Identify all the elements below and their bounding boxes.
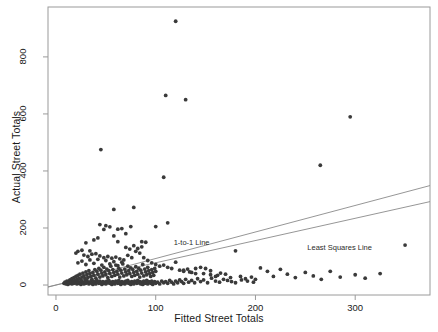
data-point xyxy=(150,261,154,265)
data-point xyxy=(378,272,382,276)
x-tick-label: 100 xyxy=(136,302,176,313)
data-point xyxy=(116,227,120,231)
data-point xyxy=(132,244,136,248)
data-point xyxy=(272,275,276,279)
data-point xyxy=(206,281,210,285)
data-point xyxy=(230,280,234,284)
data-point xyxy=(102,228,106,232)
data-point xyxy=(209,269,213,273)
data-point xyxy=(285,272,289,276)
data-point xyxy=(96,257,100,261)
data-point xyxy=(129,225,133,229)
data-point xyxy=(166,265,170,269)
data-point xyxy=(210,276,214,280)
data-point xyxy=(92,238,96,242)
data-point xyxy=(142,256,146,260)
data-point xyxy=(118,275,122,279)
data-point xyxy=(219,271,223,275)
data-point xyxy=(196,277,200,281)
data-point xyxy=(164,94,168,98)
data-point xyxy=(76,261,80,265)
data-point xyxy=(363,276,367,280)
data-point xyxy=(110,256,114,260)
data-point xyxy=(96,236,100,240)
data-point xyxy=(152,273,156,277)
data-point xyxy=(104,224,108,228)
data-point xyxy=(224,272,228,276)
axis-ticks xyxy=(43,57,355,300)
data-point xyxy=(108,225,112,229)
data-point xyxy=(338,275,342,279)
data-point xyxy=(403,243,407,247)
data-point xyxy=(126,253,130,257)
data-point xyxy=(84,241,88,245)
data-point xyxy=(193,281,197,285)
data-point xyxy=(136,247,140,251)
data-point xyxy=(108,262,112,266)
data-point xyxy=(226,279,230,283)
data-point xyxy=(194,267,198,271)
data-point xyxy=(140,245,144,249)
data-point xyxy=(90,252,94,256)
data-point xyxy=(190,279,194,283)
y-tick-label: 600 xyxy=(17,93,28,133)
data-point xyxy=(86,255,90,259)
data-point xyxy=(130,256,134,260)
data-point xyxy=(162,263,166,267)
x-axis-title: Fitted Street Totals xyxy=(0,312,438,324)
chart-annotation: 1-to-1 Line xyxy=(174,238,210,247)
data-point xyxy=(216,273,220,277)
data-point xyxy=(132,206,136,210)
data-point xyxy=(112,260,116,264)
data-point xyxy=(199,265,203,269)
x-tick-label: 300 xyxy=(335,302,375,313)
data-point xyxy=(118,257,122,261)
data-point xyxy=(106,255,110,259)
data-point xyxy=(182,281,186,285)
data-point xyxy=(112,234,116,238)
data-point xyxy=(74,251,78,255)
data-point xyxy=(222,277,226,281)
data-point xyxy=(114,255,118,259)
data-point xyxy=(218,280,222,284)
data-point xyxy=(202,278,206,282)
data-point xyxy=(178,268,182,272)
data-point xyxy=(318,163,322,167)
data-point xyxy=(112,208,116,212)
y-tick-label: 200 xyxy=(17,207,28,247)
data-point xyxy=(194,272,198,276)
data-point xyxy=(154,263,158,267)
data-point xyxy=(146,259,150,263)
data-point xyxy=(120,227,124,231)
data-point xyxy=(259,266,263,270)
data-point xyxy=(141,263,145,267)
y-tick-label: 800 xyxy=(17,36,28,76)
data-point xyxy=(229,276,233,280)
data-point xyxy=(250,275,254,279)
y-tick-label: 400 xyxy=(17,150,28,190)
data-point xyxy=(154,269,158,273)
data-point xyxy=(138,275,142,279)
y-tick-label: 0 xyxy=(17,265,28,305)
data-point xyxy=(319,277,323,281)
data-point xyxy=(98,223,102,227)
data-point xyxy=(94,252,98,256)
data-point xyxy=(99,148,103,152)
data-point xyxy=(146,265,150,269)
data-point xyxy=(124,245,128,249)
data-point xyxy=(170,267,174,271)
data-point xyxy=(104,259,108,263)
data-point xyxy=(234,281,238,285)
data-point xyxy=(278,267,282,271)
data-point xyxy=(154,225,158,229)
x-tick-label: 200 xyxy=(235,302,275,313)
data-point xyxy=(239,275,243,279)
data-point xyxy=(120,260,124,264)
data-point xyxy=(128,247,132,251)
data-point xyxy=(116,264,120,268)
data-point xyxy=(252,280,256,284)
x-tick-label: 0 xyxy=(36,302,76,313)
data-point xyxy=(116,240,120,244)
data-point xyxy=(88,258,92,262)
data-point xyxy=(82,253,86,257)
